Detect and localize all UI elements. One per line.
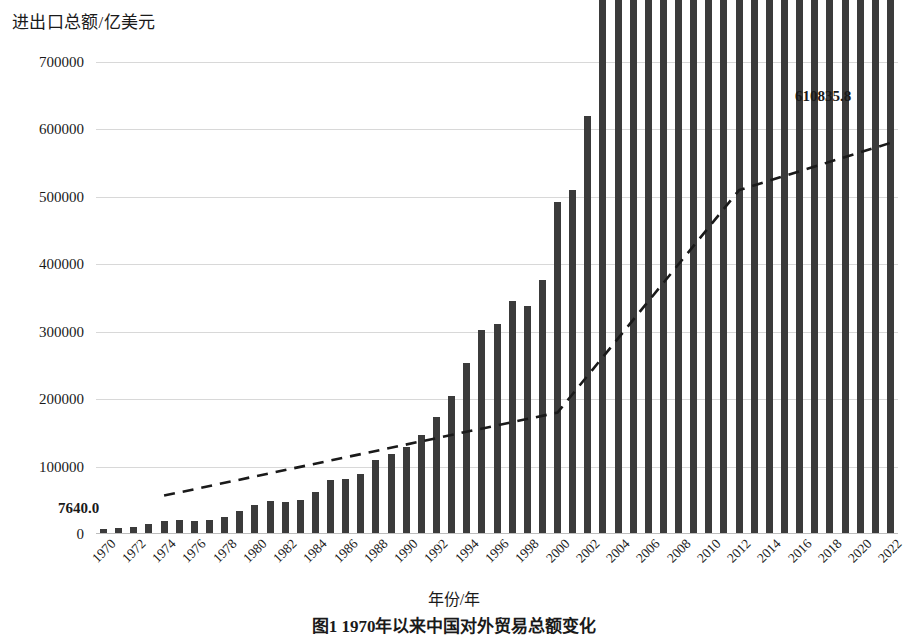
y-axis-title: 进出口总额/亿美元: [12, 8, 155, 33]
y-axis-tick-labels: 0100000200000300000400000500000600000700…: [0, 62, 92, 534]
y-axis-tick-label: 0: [77, 526, 85, 543]
y-axis-tick-label: 200000: [39, 391, 84, 408]
x-axis-tick-label: 2014: [749, 536, 784, 571]
x-axis-tick-label: 2022: [870, 536, 905, 571]
y-axis-tick-label: 700000: [39, 54, 84, 71]
x-axis-tick-label: 2010: [689, 536, 724, 571]
x-axis-tick-label: 1982: [265, 536, 300, 571]
x-axis-tick-label: 1986: [326, 536, 361, 571]
last-value-annotation: 610835.8: [795, 88, 851, 105]
x-axis-tick-label: 1972: [114, 536, 149, 571]
x-axis-tick-label: 1990: [386, 536, 421, 571]
y-axis-tick-label: 300000: [39, 323, 84, 340]
x-axis-tick-label: 1996: [477, 536, 512, 571]
x-axis-tick-label: 2020: [840, 536, 875, 571]
x-axis-tick-label: 1970: [84, 536, 119, 571]
x-axis-tick-label: 2002: [568, 536, 603, 571]
first-value-annotation: 7640.0: [58, 500, 99, 517]
x-axis-tick-label: 2012: [719, 536, 754, 571]
x-axis-tick-label: 1998: [507, 536, 542, 571]
figure-caption: 图1 1970年以来中国对外贸易总额变化: [0, 612, 908, 637]
y-axis-tick-label: 100000: [39, 458, 84, 475]
x-axis-tick-label: 1984: [295, 536, 330, 571]
x-axis-tick-label: 1994: [447, 536, 482, 571]
x-axis-tick-label: 1974: [144, 536, 179, 571]
x-axis-tick-label: 1978: [205, 536, 240, 571]
x-axis-tick-label: 1992: [416, 536, 451, 571]
plot-area: [96, 62, 898, 534]
x-axis-tick-label: 1980: [235, 536, 270, 571]
x-axis-tick-label: 2008: [659, 536, 694, 571]
trend-line-path: [164, 143, 890, 496]
x-axis-title-wrap: 年份/年: [0, 586, 908, 608]
x-axis-tick-label: 1988: [356, 536, 391, 571]
x-axis-tick-label: 2016: [780, 536, 815, 571]
x-axis-tick-label: 1976: [174, 536, 209, 571]
trend-line-series: [96, 62, 898, 534]
y-axis-tick-label: 500000: [39, 188, 84, 205]
x-axis-title: 年份/年: [0, 586, 908, 610]
x-axis-tick-label: 2018: [810, 536, 845, 571]
axis-baseline: [96, 533, 898, 534]
x-axis-tick-label: 2000: [537, 536, 572, 571]
y-axis-tick-label: 400000: [39, 256, 84, 273]
x-axis-tick-label: 2006: [628, 536, 663, 571]
y-axis-tick-label: 600000: [39, 121, 84, 138]
x-axis-tick-label: 2004: [598, 536, 633, 571]
